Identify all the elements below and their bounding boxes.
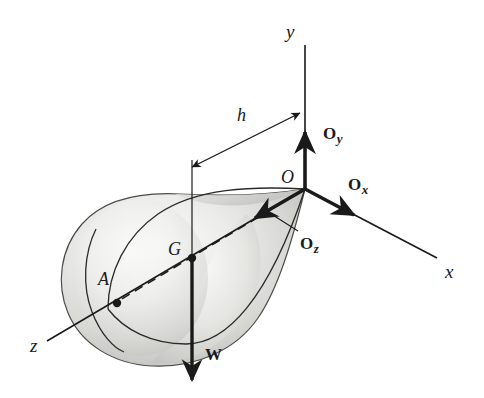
force-label-ox: Ox [348, 176, 368, 196]
body-left-bulb [72, 200, 208, 356]
force-label-oy-base: O [323, 124, 336, 143]
force-label-oz-base: O [300, 234, 313, 253]
point-label-g: G [168, 240, 181, 258]
force-label-oz-subscript: z [314, 241, 319, 256]
force-label-oy: Oy [323, 125, 343, 145]
force-label-ox-subscript: x [362, 182, 369, 197]
force-ox-arrow [305, 189, 354, 215]
dimension-h-arrow [192, 113, 300, 167]
point-marker-g [188, 254, 196, 262]
force-label-w: W [205, 346, 222, 363]
axis-label-x: x [445, 262, 453, 281]
diagram-canvas [0, 0, 484, 398]
point-label-a: A [98, 270, 109, 288]
force-label-ox-base: O [348, 175, 361, 194]
point-marker-a [113, 299, 121, 307]
point-label-origin: O [281, 168, 294, 186]
force-label-oy-subscript: y [337, 131, 343, 146]
figure-container: y x z O G A h Oy Ox Oz W [0, 0, 484, 398]
force-label-oz: Oz [300, 235, 319, 255]
axis-label-z: z [30, 336, 37, 355]
axis-label-y: y [286, 22, 294, 41]
dimension-label-h: h [237, 106, 246, 124]
